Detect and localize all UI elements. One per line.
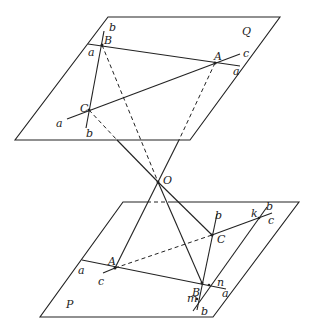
label-q-a-right: a (233, 65, 240, 78)
label-k: k (251, 207, 258, 220)
label-p-c: C (217, 233, 226, 246)
proj-o-c (158, 182, 212, 235)
point-k (258, 217, 261, 220)
geometry-figure: Q b B a A c a C a b O b k b c C A a c n … (0, 0, 315, 335)
label-q-c: c (243, 47, 249, 60)
label-q-b-bottom: b (86, 127, 93, 140)
label-p-c-left: c (98, 275, 104, 288)
label-p-b-c: b (215, 209, 222, 222)
label-q-b-top: b (109, 21, 116, 34)
point-n (208, 284, 211, 287)
label-m: m (187, 292, 197, 305)
label-o: O (163, 174, 172, 187)
label-p-b-bottom: b (201, 305, 208, 318)
label-p-a: A (107, 255, 116, 268)
plane-q (15, 17, 280, 140)
point-o (157, 181, 160, 184)
label-q-a-lower: a (56, 117, 63, 130)
label-p-b-k: b (266, 200, 273, 213)
label-p-a-left: a (78, 264, 85, 277)
point-p-c (211, 234, 214, 237)
label-plane-p: P (65, 298, 74, 311)
proj-b-dashed (102, 45, 158, 182)
proj-c-solid (117, 140, 158, 182)
label-p-c-right: c (268, 214, 274, 227)
label-q-a-left: a (88, 46, 95, 59)
label-q-c-point: C (80, 102, 89, 115)
diagram-canvas: Q b B a A c a C a b O b k b c C A a c n … (0, 0, 315, 335)
plane-p-outline (40, 202, 299, 317)
point-p-b (201, 282, 204, 285)
label-plane-q: Q (242, 25, 251, 38)
proj-o-b (158, 182, 202, 283)
label-q-b: B (103, 34, 112, 47)
proj-c-dashed (89, 110, 117, 140)
p-line-c-left (103, 268, 115, 273)
label-q-a: A (213, 50, 222, 63)
label-p-a-right: a (222, 287, 229, 300)
